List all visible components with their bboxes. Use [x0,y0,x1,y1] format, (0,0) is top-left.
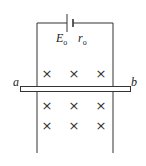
field-cross-icon: × [40,99,54,112]
emf-label: Eo [56,32,67,49]
field-cross-icon: × [67,119,81,132]
internal-resistance-label: ro [78,32,87,49]
rod-end-b-label: b [131,76,137,88]
field-cross-icon: × [94,99,108,112]
rod-end-a-label: a [13,76,19,88]
field-cross-icon: × [67,99,81,112]
field-cross-icon: × [40,67,54,80]
field-cross-icon: × [67,67,81,80]
conducting-rod [21,87,131,92]
circuit-diagram: Eo ro a b × × × × × × × × × [0,0,146,166]
circuit-lines [0,0,146,166]
field-cross-icon: × [94,67,108,80]
field-cross-icon: × [40,119,54,132]
field-cross-icon: × [94,119,108,132]
